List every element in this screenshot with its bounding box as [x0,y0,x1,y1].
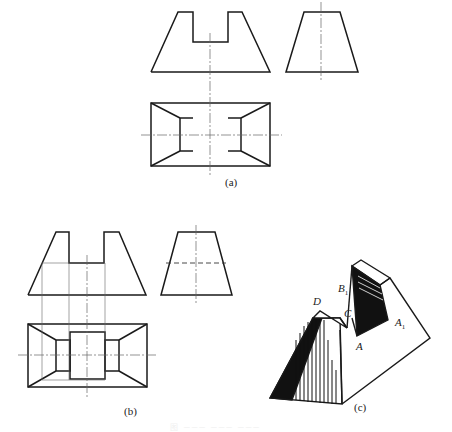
point-label-b1: B1 [338,282,348,297]
point-label-a1: A1 [395,316,405,331]
subfigure-a-label: (a) [225,176,237,188]
point-label-a: A [356,340,363,352]
top-view-a-edges [151,103,270,166]
side-view-a [286,12,358,72]
drawing-canvas [0,0,452,432]
side-view-b [161,232,232,295]
figure-caption: 图 ─── ─── ─── [170,421,261,432]
isometric-c [270,260,430,404]
subfigure-b-label: (b) [124,405,137,417]
point-label-c: C [344,307,351,319]
front-view-a [151,12,270,72]
subfigure-c-label: (c) [354,401,366,413]
point-label-d: D [313,295,321,307]
